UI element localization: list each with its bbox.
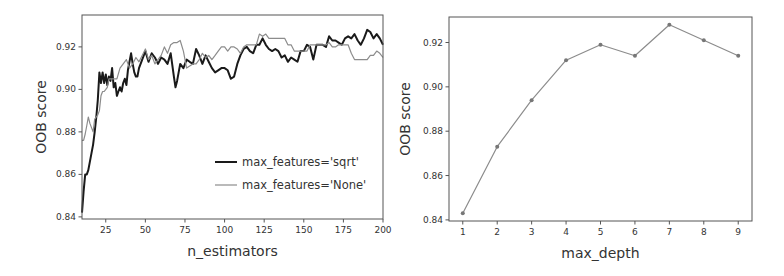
x-tick-label: 4 bbox=[563, 227, 569, 237]
data-point-marker bbox=[667, 23, 671, 27]
data-point-marker bbox=[736, 54, 740, 58]
y-tick-label: 0.86 bbox=[56, 169, 76, 179]
x-tick-label: 175 bbox=[335, 225, 352, 235]
y-axis-label: OOB score bbox=[33, 80, 49, 154]
x-tick-label: 9 bbox=[735, 227, 741, 237]
y-tick-label: 0.84 bbox=[56, 212, 76, 222]
y-tick-label: 0.92 bbox=[56, 42, 76, 52]
right-plot-canvas: 0.840.860.880.900.92123456789max_depthOO… bbox=[392, 0, 784, 276]
x-axis-label: max_depth bbox=[561, 245, 639, 261]
series-line-0 bbox=[463, 25, 738, 213]
x-tick-label: 1 bbox=[460, 227, 466, 237]
y-tick-label: 0.86 bbox=[423, 171, 443, 181]
x-tick-label: 6 bbox=[632, 227, 638, 237]
x-tick-label: 50 bbox=[140, 225, 152, 235]
y-axis-label: OOB score bbox=[397, 82, 413, 156]
x-tick-label: 2 bbox=[494, 227, 500, 237]
x-tick-label: 25 bbox=[100, 225, 111, 235]
y-tick-label: 0.92 bbox=[423, 38, 443, 48]
oob-vs-max-depth-chart: 0.840.860.880.900.92123456789max_depthOO… bbox=[392, 0, 784, 276]
data-point-marker bbox=[599, 43, 603, 47]
data-point-marker bbox=[702, 38, 706, 42]
x-tick-label: 125 bbox=[256, 225, 273, 235]
left-plot-canvas: 0.840.860.880.900.9225507510012515017520… bbox=[0, 0, 392, 276]
x-tick-label: 75 bbox=[179, 225, 190, 235]
data-point-marker bbox=[564, 58, 568, 62]
y-tick-label: 0.84 bbox=[423, 215, 443, 225]
data-point-marker bbox=[461, 211, 465, 215]
x-tick-label: 3 bbox=[529, 227, 535, 237]
data-point-marker bbox=[530, 98, 534, 102]
y-tick-label: 0.88 bbox=[56, 127, 76, 137]
legend-label-0: max_features='sqrt' bbox=[242, 155, 359, 169]
x-tick-label: 5 bbox=[598, 227, 604, 237]
series-line-1 bbox=[82, 34, 383, 140]
x-tick-label: 7 bbox=[666, 227, 672, 237]
x-axis-label: n_estimators bbox=[187, 243, 277, 259]
data-point-marker bbox=[495, 145, 499, 149]
y-tick-label: 0.88 bbox=[423, 126, 443, 136]
x-tick-label: 100 bbox=[216, 225, 233, 235]
legend-label-1: max_features='None' bbox=[242, 178, 366, 192]
legend: max_features='sqrt'max_features='None' bbox=[215, 155, 366, 192]
x-tick-label: 200 bbox=[374, 225, 391, 235]
x-tick-label: 8 bbox=[701, 227, 707, 237]
data-point-marker bbox=[633, 54, 637, 58]
y-tick-label: 0.90 bbox=[423, 82, 443, 92]
x-tick-label: 150 bbox=[295, 225, 312, 235]
axes-frame bbox=[449, 17, 752, 221]
oob-vs-n-estimators-chart: 0.840.860.880.900.9225507510012515017520… bbox=[0, 0, 392, 276]
y-tick-label: 0.90 bbox=[56, 84, 76, 94]
